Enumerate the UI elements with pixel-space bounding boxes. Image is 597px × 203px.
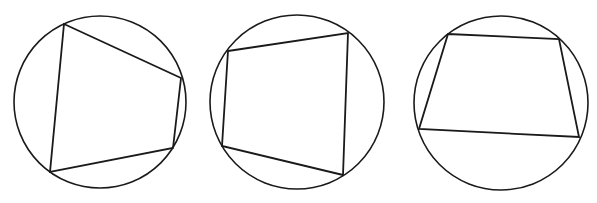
inscribed-quadrilateral-1	[50, 24, 181, 172]
inscribed-quadrilateral-2	[222, 33, 348, 175]
panel-1	[14, 16, 186, 188]
circle-3	[414, 16, 588, 190]
inscribed-quadrilateral-3	[419, 34, 579, 137]
panel-2	[210, 15, 384, 189]
panel-3	[414, 16, 588, 190]
cyclic-quadrilaterals-figure	[0, 0, 597, 203]
